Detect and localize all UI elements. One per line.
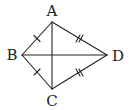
edge-cd bbox=[52, 55, 107, 89]
kite-figure bbox=[0, 0, 129, 110]
vertex-label-a: A bbox=[47, 4, 58, 19]
vertex-label-d: D bbox=[112, 49, 124, 64]
kite-diagram: A B C D bbox=[0, 0, 129, 110]
edge-ad bbox=[52, 22, 107, 55]
vertex-label-c: C bbox=[46, 94, 57, 109]
vertex-label-b: B bbox=[6, 48, 17, 63]
